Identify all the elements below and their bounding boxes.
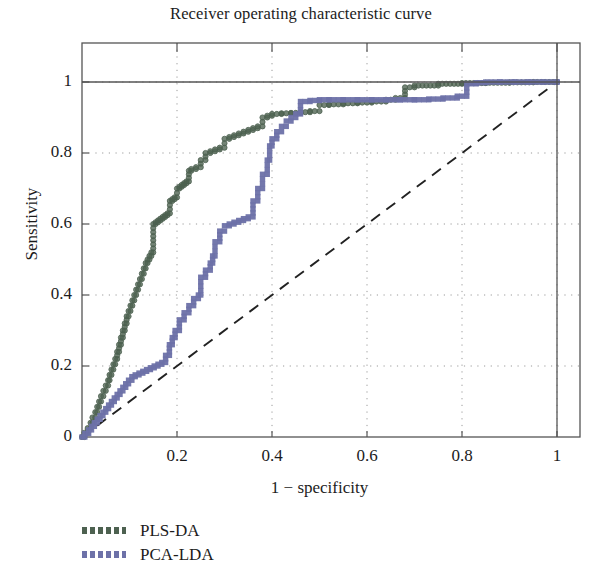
legend-label-pca-lda: PCA-LDA [140, 546, 214, 563]
series-marker [97, 404, 102, 409]
series-marker [139, 276, 144, 281]
series-marker [379, 97, 384, 102]
series-marker [260, 181, 265, 186]
series-marker [107, 378, 112, 383]
series-marker [141, 271, 146, 276]
legend-item-pca-lda: PCA-LDA [82, 542, 214, 566]
series-marker [440, 95, 445, 100]
series-marker [369, 97, 374, 102]
series-marker [130, 303, 135, 308]
series-marker [360, 97, 365, 102]
series-marker [260, 172, 265, 177]
series-marker [307, 98, 312, 103]
series-marker [279, 124, 284, 129]
series-marker [350, 97, 355, 102]
series-marker [417, 97, 422, 102]
series-marker [212, 253, 217, 258]
legend-swatch-pca-lda [82, 551, 126, 558]
legend-label-pls-da: PLS-DA [140, 522, 200, 539]
series-marker [227, 221, 232, 226]
series-marker [267, 148, 272, 153]
x-tick-label: 0.6 [337, 446, 397, 466]
series-marker [374, 97, 379, 102]
roc-figure: Receiver operating characteristic curve … [0, 0, 602, 570]
series-marker [143, 266, 148, 271]
series-marker [478, 80, 483, 85]
series-marker [383, 97, 388, 102]
series-marker [217, 228, 222, 233]
series-marker [260, 186, 265, 191]
series-marker [322, 97, 327, 102]
series-marker [398, 97, 403, 102]
chance-diagonal [82, 82, 557, 437]
series-marker [134, 292, 139, 297]
series-marker [212, 244, 217, 249]
series-marker [284, 124, 289, 129]
series-marker [109, 372, 114, 377]
series-marker [198, 275, 203, 280]
series-marker [388, 97, 393, 102]
series-marker [260, 176, 265, 181]
series-marker [135, 287, 140, 292]
series-marker [177, 317, 182, 322]
chart-legend: PLS-DA PCA-LDA [82, 518, 214, 566]
series-marker [269, 136, 274, 141]
series-marker [274, 129, 279, 134]
series-marker [267, 153, 272, 158]
series-marker [426, 96, 431, 101]
series-marker [284, 118, 289, 123]
series-marker [236, 218, 241, 223]
series-marker [103, 388, 108, 393]
series-marker [336, 97, 341, 102]
series-marker [255, 186, 260, 191]
series-marker [445, 95, 450, 100]
series-marker [345, 97, 350, 102]
series-marker [265, 172, 270, 177]
series-marker [212, 239, 217, 244]
series-marker [317, 109, 322, 114]
series-marker [288, 115, 293, 120]
series-marker [317, 97, 322, 102]
series-marker [265, 167, 270, 172]
series-marker [303, 99, 308, 104]
series-marker [250, 198, 255, 203]
series-marker [355, 97, 360, 102]
series-marker [421, 97, 426, 102]
series-marker [241, 216, 246, 221]
series-marker [326, 97, 331, 102]
series-marker [111, 367, 116, 372]
series-marker [246, 214, 251, 219]
y-tick-label: 0 [10, 426, 72, 446]
series-marker [128, 308, 133, 313]
series-marker [203, 267, 208, 272]
series-marker [436, 96, 441, 101]
series-marker [222, 223, 227, 228]
x-axis-label: 1 − specificity [82, 478, 557, 498]
y-tick-label: 1 [10, 71, 72, 91]
series-marker [98, 399, 103, 404]
series-marker [231, 220, 236, 225]
legend-swatch-pls-da [82, 527, 126, 534]
series-marker [341, 97, 346, 102]
series-marker [191, 296, 196, 301]
series-marker [293, 111, 298, 116]
series-marker [279, 129, 284, 134]
series-marker [101, 394, 106, 399]
series-marker [265, 162, 270, 167]
series-marker [181, 310, 186, 315]
series-marker [126, 314, 131, 319]
series-marker [364, 97, 369, 102]
y-tick-label: 0.4 [10, 284, 72, 304]
series-marker [474, 80, 479, 85]
legend-item-pls-da: PLS-DA [82, 518, 214, 542]
series-marker [137, 282, 142, 287]
y-tick-label: 0.6 [10, 213, 72, 233]
series-marker [106, 383, 111, 388]
series-marker [113, 362, 118, 367]
series-marker [431, 96, 436, 101]
x-tick-label: 0.2 [147, 446, 207, 466]
series-marker [455, 94, 460, 99]
series-marker [407, 97, 412, 102]
x-tick-label: 1 [527, 446, 587, 466]
x-tick-label: 0.4 [242, 446, 302, 466]
